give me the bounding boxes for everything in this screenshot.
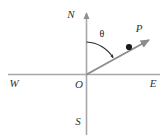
ray-op-line xyxy=(87,40,150,75)
label-origin: O xyxy=(75,78,83,90)
label-north: N xyxy=(66,8,75,20)
label-point-p: P xyxy=(135,22,143,34)
angle-theta-arc xyxy=(87,42,114,58)
label-south: S xyxy=(75,115,81,127)
diagram-canvas: N S W E O P θ xyxy=(0,0,165,137)
label-angle-theta: θ xyxy=(100,28,105,39)
bearing-diagram-figure: N S W E O P θ xyxy=(0,0,165,137)
label-east: E xyxy=(149,77,157,89)
label-west: W xyxy=(9,77,19,89)
point-p-marker xyxy=(126,44,132,50)
